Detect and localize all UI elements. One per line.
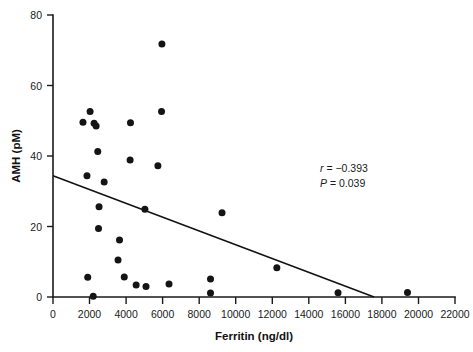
data-point	[158, 40, 165, 47]
y-tick-label-80: 80	[30, 9, 42, 21]
x-axis-ticks: 0 2000 4000 6000 8000 10000 12000 14000 …	[50, 297, 470, 320]
plot-canvas: 0 20 40 60 80 0 2000 4000 6000 8000 100	[0, 0, 473, 352]
data-point	[93, 123, 100, 130]
data-point	[127, 119, 134, 126]
correlation-annotation: r = −0.393	[320, 162, 368, 174]
x-tick-label-18000: 18000	[367, 308, 396, 320]
data-point	[143, 283, 150, 290]
data-point	[127, 156, 134, 163]
data-point	[133, 282, 140, 289]
x-tick-label-4000: 4000	[114, 308, 138, 320]
data-point	[141, 206, 148, 213]
data-point	[335, 289, 342, 296]
data-point	[158, 108, 165, 115]
data-point	[116, 236, 123, 243]
y-axis-ticks: 0 20 40 60 80	[30, 9, 53, 303]
data-point	[207, 290, 214, 297]
x-tick-label-8000: 8000	[188, 308, 212, 320]
r-value: = −0.393	[324, 162, 369, 174]
data-point	[219, 209, 226, 216]
x-tick-label-12000: 12000	[258, 308, 287, 320]
p-label: P	[320, 177, 327, 189]
data-point	[154, 162, 161, 169]
data-point	[101, 179, 108, 186]
data-point	[404, 289, 411, 296]
x-tick-label-2000: 2000	[78, 308, 102, 320]
p-value: = 0.039	[327, 177, 365, 189]
data-point	[166, 280, 173, 287]
x-tick-label-16000: 16000	[331, 308, 360, 320]
data-point	[273, 264, 280, 271]
data-point	[84, 274, 91, 281]
x-tick-label-20000: 20000	[404, 308, 433, 320]
data-point	[90, 293, 97, 300]
data-point	[115, 256, 122, 263]
y-tick-label-40: 40	[30, 150, 42, 162]
y-axis-title: AMH (pM)	[10, 129, 22, 183]
y-tick-label-60: 60	[30, 80, 42, 92]
data-point	[96, 203, 103, 210]
scatter-plot-figure: 0 20 40 60 80 0 2000 4000 6000 8000 100	[0, 0, 473, 352]
data-point	[95, 225, 102, 232]
x-tick-label-10000: 10000	[221, 308, 250, 320]
x-axis-title: Ferritin (ng/dl)	[215, 330, 293, 342]
x-tick-label-22000: 22000	[440, 308, 469, 320]
data-point	[94, 148, 101, 155]
data-point	[83, 172, 90, 179]
axes-group	[53, 15, 455, 297]
x-tick-label-6000: 6000	[151, 308, 175, 320]
y-tick-label-20: 20	[30, 221, 42, 233]
data-point	[87, 108, 94, 115]
data-point	[207, 276, 214, 283]
data-point	[79, 119, 86, 126]
x-tick-label-14000: 14000	[294, 308, 323, 320]
data-point	[121, 273, 128, 280]
y-tick-label-0: 0	[36, 291, 42, 303]
x-tick-label-0: 0	[50, 308, 56, 320]
pvalue-annotation: P = 0.039	[320, 177, 365, 189]
